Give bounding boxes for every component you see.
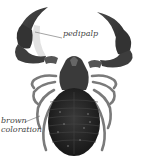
brown-coloration-label-line1: brown xyxy=(1,116,42,125)
shadow xyxy=(33,25,46,58)
right-pedipalp xyxy=(88,12,133,68)
brown-coloration-label: brown coloration xyxy=(1,116,42,134)
pseudoscorpion-illustration xyxy=(0,0,147,159)
pedipalp-label: pedipalp xyxy=(63,29,98,38)
brown-coloration-label-line2: coloration xyxy=(1,125,42,134)
